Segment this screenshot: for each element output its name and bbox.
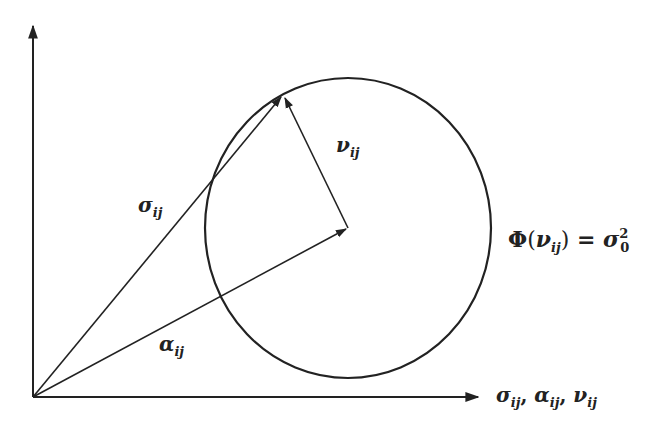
horizontal-axis-label: σij, αij, νij (496, 383, 597, 410)
alpha-label: αij (159, 332, 184, 359)
alpha-vector (33, 229, 346, 397)
yield-condition-label: Φ(νij) = σ20 (508, 226, 629, 255)
nu-vector (285, 98, 348, 228)
sigma-label: σij (138, 193, 163, 220)
nu-label: νij (336, 133, 360, 160)
diagram-canvas: σij αij νij Φ(νij) = σ20 σij, αij, νij (0, 0, 657, 434)
sigma-vector (33, 97, 281, 397)
